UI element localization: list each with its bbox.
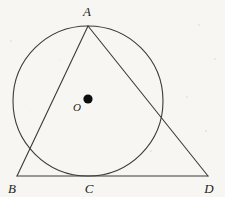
paper-speckle <box>70 30 71 31</box>
label-D: D <box>204 182 213 195</box>
label-O: O <box>73 102 81 113</box>
paper-speckle <box>214 58 216 60</box>
center-point-O <box>83 94 92 103</box>
paper-speckle <box>120 170 121 171</box>
paper-speckle <box>205 130 207 132</box>
paper-speckle <box>60 60 61 61</box>
geometry-figure: A B C D O <box>0 0 225 197</box>
paper-speckle <box>30 110 31 111</box>
paper-speckle <box>186 96 188 98</box>
paper-speckle <box>198 24 200 26</box>
paper-speckle <box>150 150 152 152</box>
label-A: A <box>83 5 91 18</box>
segment-AD <box>88 26 208 176</box>
label-C: C <box>85 182 94 195</box>
paper-speckle <box>10 40 12 42</box>
label-B: B <box>8 182 16 195</box>
figure-canvas <box>0 0 225 197</box>
